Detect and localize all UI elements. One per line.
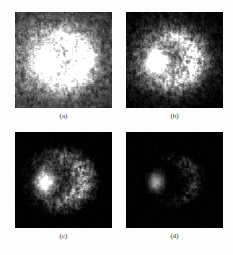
panel-a-image xyxy=(15,12,112,108)
panel-c-image xyxy=(15,132,112,228)
panel-d-image xyxy=(126,132,223,228)
panel-c-canvas xyxy=(15,132,112,228)
panel-a-caption: (a) xyxy=(15,112,112,121)
panel-b xyxy=(126,12,223,108)
panel-d-canvas xyxy=(126,132,223,228)
panel-a-canvas xyxy=(15,12,112,108)
panel-a xyxy=(15,12,112,108)
panel-b-image xyxy=(126,12,223,108)
panel-d-caption: (d) xyxy=(126,232,223,241)
panel-c xyxy=(15,132,112,228)
panel-b-caption: (b) xyxy=(126,112,223,121)
panel-b-canvas xyxy=(126,12,223,108)
figure-panel-grid: (a) (b) (c) (d) xyxy=(0,0,233,255)
panel-c-caption: (c) xyxy=(15,232,112,241)
panel-d xyxy=(126,132,223,228)
